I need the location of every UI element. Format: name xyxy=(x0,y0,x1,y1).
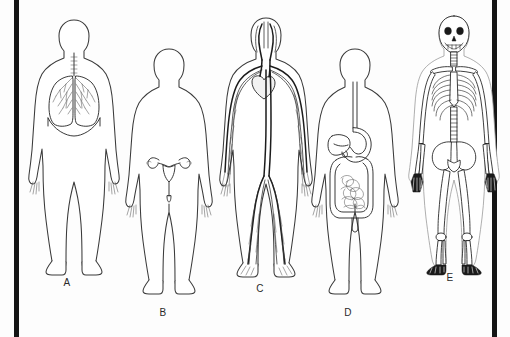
diagram-canvas: A B xyxy=(0,0,510,337)
figure-label-b: B xyxy=(151,307,175,318)
figure-label-c: C xyxy=(248,283,272,294)
figure-e-skeletal-system xyxy=(408,10,500,276)
frame-bar-left xyxy=(14,0,19,337)
figure-a-respiratory-system xyxy=(28,14,120,276)
figure-label-e: E xyxy=(438,272,462,283)
figure-c-circulatory-system xyxy=(218,14,314,280)
figure-label-d: D xyxy=(336,307,360,318)
figure-label-a: A xyxy=(55,277,79,288)
figure-b-reproductive-system xyxy=(126,44,212,292)
figure-d-digestive-system xyxy=(312,44,398,292)
